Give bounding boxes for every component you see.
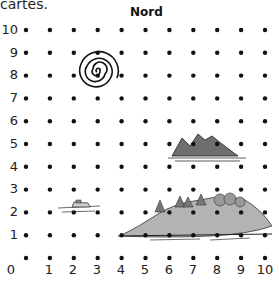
grid-dot xyxy=(48,96,52,100)
grid-dot xyxy=(143,142,147,146)
grid-dot xyxy=(191,28,195,32)
grid-dot xyxy=(48,142,52,146)
grid-dot xyxy=(191,96,195,100)
grid-dot xyxy=(24,119,28,123)
grid-dot xyxy=(215,28,219,32)
grid-dot xyxy=(96,96,100,100)
grid-dot xyxy=(48,187,52,191)
grid-dot xyxy=(263,256,267,260)
grid-dot xyxy=(96,256,100,260)
grid-dot xyxy=(96,28,100,32)
grid-dot xyxy=(119,256,123,260)
grid-dot xyxy=(263,119,267,123)
grid-dot xyxy=(167,96,171,100)
grid-dot xyxy=(239,233,243,237)
grid-dot xyxy=(239,28,243,32)
grid-dot xyxy=(24,96,28,100)
grid-dot xyxy=(48,73,52,77)
grid-dot xyxy=(191,187,195,191)
grid-dot xyxy=(48,165,52,169)
grid-dot xyxy=(143,256,147,260)
grid-dot xyxy=(24,28,28,32)
grid-dot xyxy=(24,142,28,146)
grid-dot xyxy=(24,233,28,237)
grid-dot xyxy=(72,256,76,260)
grid-dot xyxy=(48,256,52,260)
grid-dot xyxy=(263,96,267,100)
grid-dot xyxy=(96,119,100,123)
grid-dot xyxy=(72,187,76,191)
grid-dot xyxy=(119,187,123,191)
grid-dot xyxy=(239,256,243,260)
grid-dot xyxy=(143,187,147,191)
grid-dot xyxy=(215,210,219,214)
grid-dot xyxy=(143,28,147,32)
grid-dot xyxy=(24,210,28,214)
grid-dot xyxy=(215,142,219,146)
grid-dot xyxy=(167,51,171,55)
grid-dot xyxy=(96,187,100,191)
grid-dot xyxy=(72,28,76,32)
forested-island-icon xyxy=(118,193,272,240)
grid-dot xyxy=(119,142,123,146)
grid-dot xyxy=(263,233,267,237)
grid-dot xyxy=(239,51,243,55)
grid-dot xyxy=(119,73,123,77)
grid-dot xyxy=(72,119,76,123)
grid-dot xyxy=(167,28,171,32)
grid-dot xyxy=(48,28,52,32)
grid-dot xyxy=(239,210,243,214)
boat-icon xyxy=(58,200,100,212)
grid-dot xyxy=(143,51,147,55)
grid-dot xyxy=(48,233,52,237)
grid-dot xyxy=(263,187,267,191)
grid-dot xyxy=(96,233,100,237)
grid-dot xyxy=(263,51,267,55)
grid-dot xyxy=(119,28,123,32)
grid-dot xyxy=(143,165,147,169)
grid-dot xyxy=(167,119,171,123)
grid-dot xyxy=(72,165,76,169)
grid-dot xyxy=(263,165,267,169)
grid-dot xyxy=(263,142,267,146)
grid-dot xyxy=(191,233,195,237)
grid-dot xyxy=(191,142,195,146)
grid-dot xyxy=(48,51,52,55)
grid-dot xyxy=(24,165,28,169)
grid-dot xyxy=(215,73,219,77)
grid-dot xyxy=(167,210,171,214)
grid-dot xyxy=(24,187,28,191)
grid-dot xyxy=(119,51,123,55)
grid-dot xyxy=(167,165,171,169)
grid-dot xyxy=(119,96,123,100)
grid-dot xyxy=(239,165,243,169)
grid-dot xyxy=(143,73,147,77)
grid-dot xyxy=(167,256,171,260)
grid-dot xyxy=(215,165,219,169)
grid-dot xyxy=(96,73,100,77)
grid-dot xyxy=(24,73,28,77)
grid-dot xyxy=(143,119,147,123)
grid-dot xyxy=(96,51,100,55)
grid-dot xyxy=(191,210,195,214)
grid-dot xyxy=(48,119,52,123)
grid-dot xyxy=(263,210,267,214)
grid-dot xyxy=(96,210,100,214)
spiral-icon xyxy=(80,52,119,87)
grid-dot xyxy=(119,210,123,214)
grid-dot xyxy=(72,142,76,146)
grid-dot xyxy=(167,73,171,77)
grid-dot xyxy=(119,165,123,169)
grid-dot xyxy=(72,51,76,55)
grid-dot xyxy=(72,73,76,77)
grid-dot xyxy=(263,28,267,32)
grid-dot xyxy=(239,119,243,123)
grid-dot xyxy=(191,256,195,260)
grid-dot xyxy=(215,233,219,237)
grid-dot xyxy=(72,233,76,237)
grid-dot xyxy=(72,96,76,100)
grid-dot xyxy=(143,210,147,214)
grid-dot xyxy=(96,165,100,169)
grid-dot xyxy=(167,142,171,146)
grid-dot xyxy=(215,256,219,260)
